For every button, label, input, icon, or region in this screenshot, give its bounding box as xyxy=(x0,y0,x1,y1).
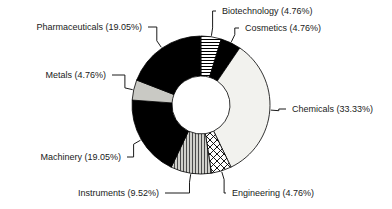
donut-chart: Biotechnology (4.76%) Cosmetics (4.76%) … xyxy=(0,0,392,209)
slice-label-metals: Metals (4.76%) xyxy=(45,70,106,80)
slice-label-machinery: Machinery (19.05%) xyxy=(40,152,121,162)
donut-slices xyxy=(132,36,270,174)
leader-line-cosmetics xyxy=(231,28,239,42)
leader-line-metals xyxy=(112,75,133,90)
leader-line-instruments xyxy=(165,174,191,193)
slice-label-biotechnology: Biotechnology (4.76%) xyxy=(222,6,313,16)
leader-line-chemicals xyxy=(271,109,286,111)
chart-canvas: Biotechnology (4.76%) Cosmetics (4.76%) … xyxy=(0,0,392,209)
leader-line-engineering xyxy=(222,172,226,193)
leader-line-biotechnology xyxy=(211,11,216,36)
slice-label-pharmaceuticals: Pharmaceuticals (19.05%) xyxy=(36,22,142,32)
slice-label-chemicals: Chemicals (33.33%) xyxy=(292,104,373,114)
leader-line-machinery xyxy=(127,140,141,157)
slice-label-instruments: Instruments (9.52%) xyxy=(78,188,159,198)
leader-line-pharmaceuticals xyxy=(148,27,161,47)
slice-label-cosmetics: Cosmetics (4.76%) xyxy=(245,23,321,33)
slice-label-engineering: Engineering (4.76%) xyxy=(232,188,314,198)
